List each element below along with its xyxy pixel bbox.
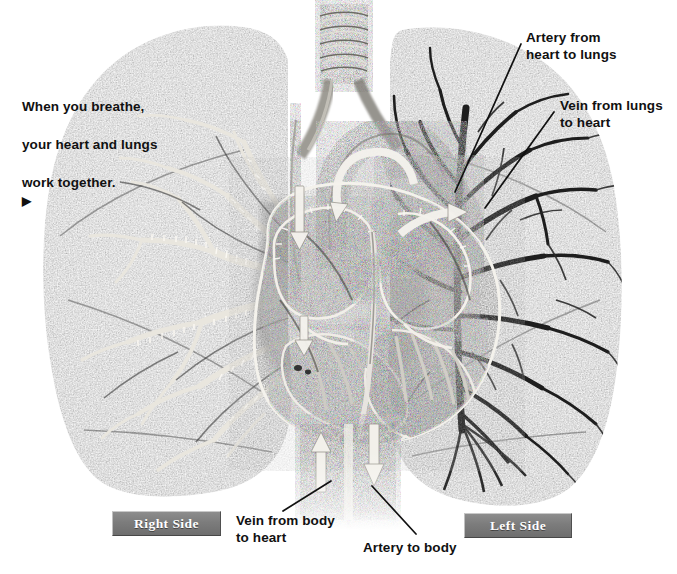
intro-line-1: When you breathe, [22,99,144,114]
intro-line-2: your heart and lungs [22,137,158,152]
intro-line-3: work together. [22,175,116,190]
badge-right-side: Right Side [112,511,221,536]
label-vein-from-body-to-heart: Vein from body to heart [236,513,335,546]
label-vein-from-lungs-to-heart: Vein from lungs to heart [560,98,663,131]
badge-left-side: Left Side [464,513,572,538]
label-artery-to-body: Artery to body [363,540,457,557]
intro-caption: When you breathe, your heart and lungs w… [22,78,158,211]
figure-canvas: When you breathe, your heart and lungs w… [0,0,677,574]
intro-arrow-icon: ▶ [22,195,31,207]
label-artery-from-heart-to-lungs: Artery from heart to lungs [526,30,617,63]
heart-group [254,183,499,446]
